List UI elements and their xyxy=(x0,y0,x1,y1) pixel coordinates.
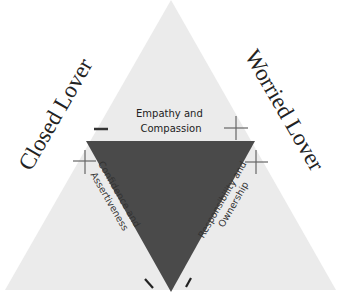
triangle-diagram: Empathy and Compassion Confidence and As… xyxy=(0,0,341,301)
